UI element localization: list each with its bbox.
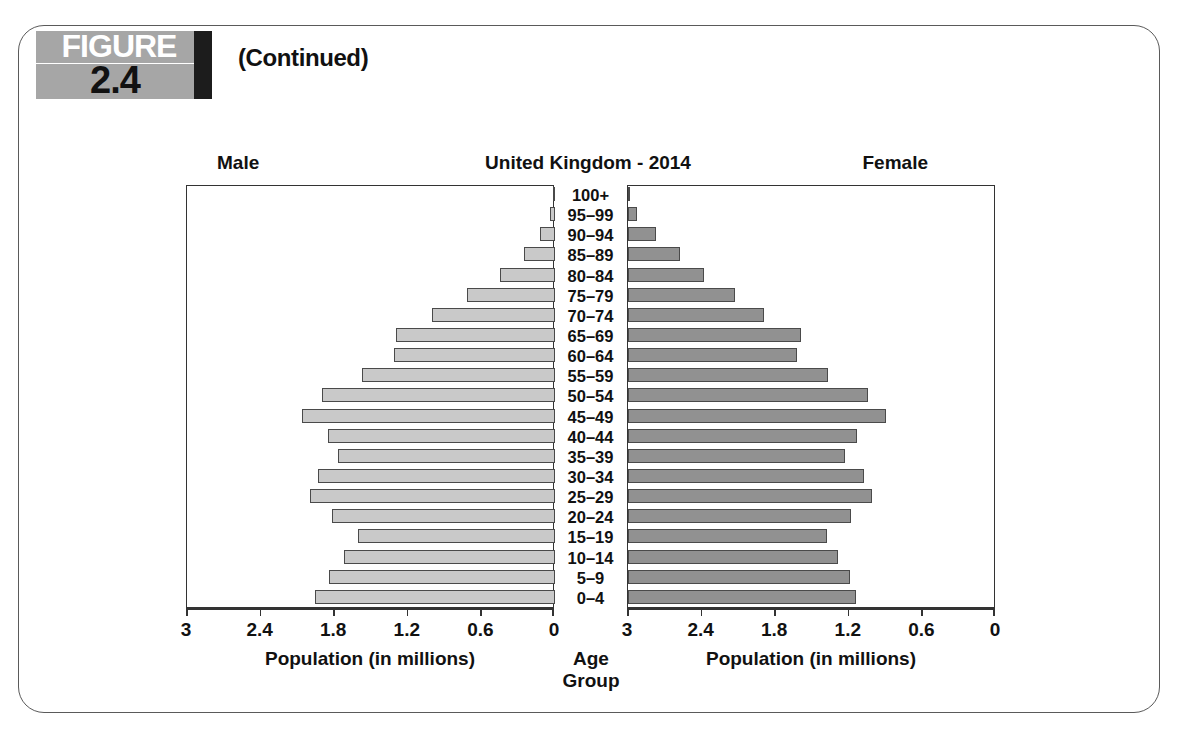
badge-figure-number: 2.4 bbox=[36, 60, 194, 100]
figure-frame bbox=[18, 25, 1160, 713]
figure-badge: FIGURE 2.4 bbox=[36, 31, 212, 99]
continued-label: (Continued) bbox=[238, 44, 368, 72]
